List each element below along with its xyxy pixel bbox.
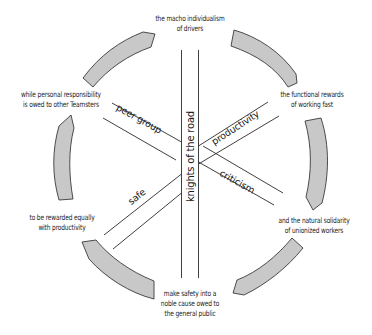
arrow-left xyxy=(54,115,74,200)
label-bottom-line2: noble cause owed to xyxy=(147,299,233,309)
arrow-upper-left xyxy=(83,32,155,87)
label-upper-right-line2: of working fast xyxy=(269,100,355,110)
label-upper-right: the functional rewards of working fast xyxy=(269,90,355,110)
label-lower-left-line1: to be rewarded equally xyxy=(19,213,105,223)
label-bottom-line1: make safety into a xyxy=(147,289,233,299)
center-label: knights of the road xyxy=(185,107,196,207)
label-bottom: make safety into a noble cause owed to t… xyxy=(147,289,233,319)
label-upper-right-line1: the functional rewards xyxy=(269,90,355,100)
label-upper-left: while personal responsibility is owed to… xyxy=(14,90,109,110)
label-top-line2: of drivers xyxy=(143,24,238,34)
label-bottom-line3: the general public xyxy=(147,309,233,319)
arrow-lower-left xyxy=(82,240,154,299)
label-lower-right-line2: of unionized workers xyxy=(271,226,357,236)
label-top: the macho individualism of drivers xyxy=(143,14,238,34)
arrow-upper-right xyxy=(231,30,297,87)
label-top-line1: the macho individualism xyxy=(143,14,238,24)
arrow-lower-right xyxy=(233,238,303,295)
label-lower-left: to be rewarded equally with productivity xyxy=(19,213,105,233)
label-lower-right: and the natural solidarity of unionized … xyxy=(271,216,357,236)
label-upper-left-line1: while personal responsibility xyxy=(14,90,109,100)
label-upper-left-line2: is owed to other Teamsters xyxy=(14,100,109,110)
arrow-right xyxy=(305,118,328,210)
label-lower-right-line1: and the natural solidarity xyxy=(271,216,357,226)
label-lower-left-line2: with productivity xyxy=(19,223,105,233)
